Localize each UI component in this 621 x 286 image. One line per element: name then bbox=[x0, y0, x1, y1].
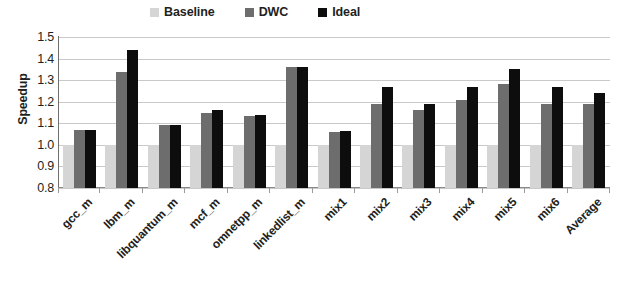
x-axis-label: mcf_m bbox=[186, 195, 223, 232]
bar-dwc bbox=[244, 116, 255, 188]
y-tick-label: 1.3 bbox=[24, 73, 54, 87]
x-axis-label: mix4 bbox=[449, 195, 478, 224]
bar-baseline bbox=[530, 145, 541, 188]
bar-dwc bbox=[74, 130, 85, 188]
bar-dwc bbox=[116, 72, 127, 188]
legend-swatch-dwc bbox=[245, 8, 254, 17]
bar-ideal bbox=[509, 69, 520, 188]
bar-group bbox=[355, 37, 397, 188]
x-label-cell: linkedlist_m bbox=[270, 193, 312, 283]
bar-ideal bbox=[424, 104, 435, 188]
bar-group bbox=[440, 37, 482, 188]
bar-group bbox=[398, 37, 440, 188]
bar-group bbox=[568, 37, 610, 188]
bar-ideal bbox=[170, 125, 181, 188]
bar-baseline bbox=[275, 145, 286, 188]
bar-dwc bbox=[159, 125, 170, 188]
bar-group bbox=[525, 37, 567, 188]
y-tick-label: 1.5 bbox=[24, 30, 54, 44]
bar-ideal bbox=[594, 93, 605, 188]
y-tick-label: 1.4 bbox=[24, 52, 54, 66]
bar-ideal bbox=[467, 87, 478, 188]
legend-entry-baseline: Baseline bbox=[150, 5, 215, 19]
bar-baseline bbox=[572, 145, 583, 188]
bar-group bbox=[228, 37, 270, 188]
y-tick-label: 0.8 bbox=[24, 181, 54, 195]
bar-group bbox=[483, 37, 525, 188]
bar-ideal bbox=[127, 50, 138, 188]
speedup-bar-chart: BaselineDWCIdeal Speedup 1.51.41.31.21.1… bbox=[0, 0, 621, 286]
bar-baseline bbox=[190, 145, 201, 188]
x-label-cell: mix3 bbox=[398, 193, 440, 283]
x-label-cell: libquantum_m bbox=[143, 193, 185, 283]
legend-entry-dwc: DWC bbox=[245, 5, 289, 19]
bar-dwc bbox=[329, 132, 340, 188]
bar-baseline bbox=[487, 145, 498, 188]
x-label-cell: gcc_m bbox=[58, 193, 100, 283]
bar-baseline bbox=[445, 145, 456, 188]
y-tick-label: 1.1 bbox=[24, 116, 54, 130]
bar-baseline bbox=[63, 145, 74, 188]
x-axis-category-labels: gcc_mlbm_mlibquantum_mmcf_momnetpp_mlink… bbox=[58, 193, 610, 283]
x-label-cell: mix2 bbox=[355, 193, 397, 283]
bar-group bbox=[58, 37, 100, 188]
y-tick-label: 1.0 bbox=[24, 138, 54, 152]
bar-ideal bbox=[297, 67, 308, 188]
x-axis-label: lbm_m bbox=[101, 195, 138, 232]
x-axis-label: mix5 bbox=[491, 195, 520, 224]
bar-group bbox=[270, 37, 312, 188]
x-label-cell: mix6 bbox=[525, 193, 567, 283]
bar-dwc bbox=[201, 113, 212, 189]
bar-dwc bbox=[583, 104, 594, 188]
bar-baseline bbox=[148, 145, 159, 188]
x-label-cell: mix4 bbox=[440, 193, 482, 283]
bar-ideal bbox=[85, 130, 96, 188]
bar-group bbox=[185, 37, 227, 188]
bar-baseline bbox=[105, 145, 116, 188]
bar-ideal bbox=[552, 87, 563, 188]
bar-group bbox=[313, 37, 355, 188]
bar-ideal bbox=[255, 115, 266, 188]
x-axis-label: mix6 bbox=[534, 195, 563, 224]
x-label-cell: mix5 bbox=[483, 193, 525, 283]
y-tick-label: 0.9 bbox=[24, 159, 54, 173]
x-axis-label: mix2 bbox=[364, 195, 393, 224]
bars-layer bbox=[58, 37, 610, 188]
bar-baseline bbox=[233, 145, 244, 188]
bar-baseline bbox=[360, 145, 371, 188]
x-axis-label: mix3 bbox=[406, 195, 435, 224]
legend-swatch-ideal bbox=[318, 8, 327, 17]
x-axis-label: gcc_m bbox=[59, 195, 95, 231]
bar-dwc bbox=[541, 104, 552, 188]
legend-label-dwc: DWC bbox=[259, 5, 289, 19]
bar-dwc bbox=[286, 67, 297, 188]
y-axis-tick-labels: 1.51.41.31.21.11.00.90.8 bbox=[24, 30, 54, 188]
bar-dwc bbox=[498, 84, 509, 188]
bar-ideal bbox=[212, 110, 223, 188]
legend-entry-ideal: Ideal bbox=[318, 5, 360, 19]
bar-baseline bbox=[402, 145, 413, 188]
x-label-cell: mix1 bbox=[313, 193, 355, 283]
y-tick-label: 1.2 bbox=[24, 95, 54, 109]
x-axis-label: mix1 bbox=[321, 195, 350, 224]
legend-swatch-baseline bbox=[150, 8, 159, 17]
chart-legend: BaselineDWCIdeal bbox=[150, 2, 510, 22]
legend-label-ideal: Ideal bbox=[332, 5, 360, 19]
bar-group bbox=[100, 37, 142, 188]
x-label-cell: Average bbox=[568, 193, 610, 283]
bar-baseline bbox=[318, 145, 329, 188]
bar-dwc bbox=[413, 110, 424, 188]
bar-group bbox=[143, 37, 185, 188]
bar-dwc bbox=[371, 104, 382, 188]
x-axis-label: Average bbox=[563, 195, 605, 237]
legend-label-baseline: Baseline bbox=[164, 5, 215, 19]
bar-dwc bbox=[456, 100, 467, 188]
bar-ideal bbox=[340, 131, 351, 188]
bar-ideal bbox=[382, 87, 393, 188]
plot-area bbox=[58, 37, 610, 188]
